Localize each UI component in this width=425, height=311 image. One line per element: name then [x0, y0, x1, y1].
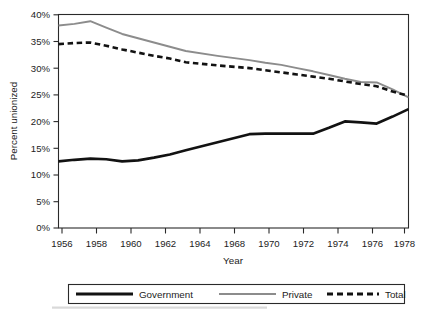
legend: Government Private Total [69, 285, 406, 304]
y-tick-group: 40% [31, 9, 59, 20]
x-tick-group: 1960 [120, 228, 141, 249]
x-tick-group: 1976 [362, 228, 383, 249]
y-tick-label: 15% [31, 143, 51, 154]
y-tick-label: 5% [36, 196, 50, 207]
y-tick-label: 0% [36, 222, 50, 233]
y-tick-label: 40% [31, 9, 51, 20]
line-chart: 40% 35% 30% 25% 20% 15% [0, 0, 425, 311]
y-tick-label: 35% [31, 36, 51, 47]
y-tick-label: 10% [31, 169, 51, 180]
x-tick-label: 1958 [86, 238, 107, 249]
y-tick-group: 25% [31, 89, 59, 100]
x-tick-label: 1956 [51, 238, 72, 249]
y-tick-group: 20% [31, 116, 59, 127]
x-tick-label: 1962 [155, 238, 176, 249]
y-tick-group: 10% [31, 169, 59, 180]
y-tick-label: 20% [31, 116, 51, 127]
legend-label-total: Total [385, 289, 406, 300]
x-tick-group: 1964 [189, 228, 211, 249]
legend-label-private: Private [282, 289, 313, 300]
y-axis: 40% 35% 30% 25% 20% 15% [8, 9, 59, 233]
x-tick-group: 1974 [327, 228, 349, 249]
x-tick-label: 1978 [394, 238, 415, 249]
x-tick-group: 1978 [394, 228, 415, 249]
x-tick-label: 1968 [224, 238, 245, 249]
chart-figure: 40% 35% 30% 25% 20% 15% [0, 0, 425, 311]
x-axis-title: Year [223, 255, 244, 266]
x-tick-group: 1970 [258, 228, 279, 249]
y-tick-label: 30% [31, 63, 51, 74]
x-tick-group: 1958 [86, 228, 107, 249]
y-tick-group: 0% [36, 222, 58, 233]
y-axis-title: Percent unionized [8, 82, 19, 160]
scan-artifact [52, 307, 267, 309]
y-tick-group: 15% [31, 143, 59, 154]
x-tick-group: 1968 [224, 228, 245, 249]
x-tick-label: 1970 [258, 238, 279, 249]
x-tick-group: 1972 [293, 228, 314, 249]
y-tick-group: 30% [31, 63, 59, 74]
x-tick-label: 1960 [120, 238, 141, 249]
x-axis: 1956 1958 1960 1962 1964 1968 [51, 228, 415, 266]
y-tick-group: 35% [31, 36, 59, 47]
x-tick-group: 1956 [51, 228, 72, 249]
x-tick-label: 1974 [327, 238, 349, 249]
x-tick-label: 1972 [293, 238, 314, 249]
y-tick-label: 25% [31, 89, 51, 100]
legend-label-government: Government [139, 289, 193, 300]
x-tick-group: 1962 [155, 228, 176, 249]
y-tick-group: 5% [36, 196, 58, 207]
x-tick-label: 1976 [362, 238, 383, 249]
x-tick-label: 1964 [189, 238, 211, 249]
